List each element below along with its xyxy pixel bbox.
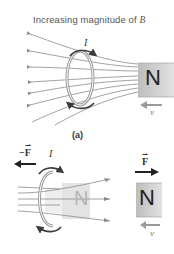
field-line-7: [32, 88, 138, 122]
lenz-law-figure: Increasing magnitude of B: [0, 0, 174, 254]
current-label-top: I: [84, 37, 87, 48]
velocity-label-top: v: [150, 107, 154, 117]
field-line-6: [30, 84, 138, 105]
vector-arrow-glyph: ⇀: [25, 142, 31, 150]
magnet-north-label-top: N: [145, 65, 161, 91]
neg-force-label: −F⇀: [19, 147, 31, 158]
panel-label-a: (a): [72, 130, 83, 140]
ghost-magnet-north-label: N: [74, 187, 88, 210]
current-label-bottom: I: [49, 148, 52, 159]
force-var-with-vector-arrow: F⇀: [25, 147, 31, 158]
current-loop-top: [67, 51, 93, 105]
force-label-magnet: F⇀: [142, 156, 148, 167]
magnet-north-label-bottom: N: [139, 185, 155, 211]
current-arrow-bottom-lower: [39, 227, 61, 232]
field-line-3: [30, 67, 138, 71]
vector-arrow-glyph: ⇀: [142, 151, 148, 159]
velocity-label-bottom: v: [150, 228, 154, 238]
